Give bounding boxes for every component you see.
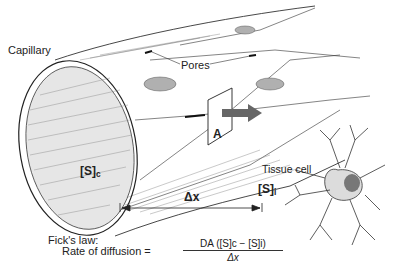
equation-fraction: DA ([S]c − [S]i) Δx — [183, 238, 283, 263]
capillary-concentration-symbol: [S] — [80, 164, 96, 178]
equation-denominator: Δx — [183, 251, 283, 263]
tissue-concentration-subscript: i — [274, 187, 276, 197]
rate-of-diffusion-label: Rate of diffusion = — [62, 245, 151, 257]
capillary-label: Capillary — [8, 44, 51, 56]
tissue-cell-label: Tissue cell — [262, 163, 311, 175]
pores-label: Pores — [181, 59, 210, 71]
area-label: A — [213, 127, 222, 141]
tissue-cell — [285, 125, 385, 245]
tissue-concentration-symbol: [S] — [258, 182, 274, 196]
capillary-concentration-subscript: c — [96, 169, 101, 179]
capillary-concentration-label: [S]c — [80, 164, 101, 179]
distance-label: Δx — [184, 190, 199, 204]
tissue-concentration-label: [S]i — [258, 182, 276, 197]
equation-numerator: DA ([S]c − [S]i) — [183, 238, 283, 251]
